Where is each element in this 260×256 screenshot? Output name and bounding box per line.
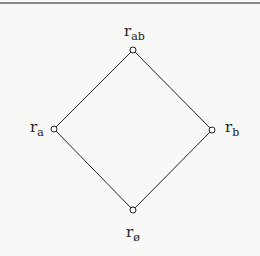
label-bottom: rø [126, 225, 140, 243]
edge-right-bottom [133, 130, 212, 210]
label-left-sub: a [37, 126, 44, 139]
node-top [130, 47, 136, 53]
label-bottom-sub: ø [133, 231, 140, 244]
edge-left-bottom [54, 129, 133, 210]
label-top: rab [124, 24, 145, 42]
label-top-sub: ab [131, 30, 145, 43]
label-right: rb [225, 120, 239, 138]
node-right [209, 127, 215, 133]
edge-top-left [54, 50, 133, 129]
node-bottom [130, 207, 136, 213]
node-left [51, 126, 57, 132]
edge-top-right [133, 50, 212, 130]
lattice-diagram: rab ra rb rø [0, 0, 260, 256]
label-left: ra [30, 120, 44, 138]
label-right-sub: b [232, 126, 239, 139]
